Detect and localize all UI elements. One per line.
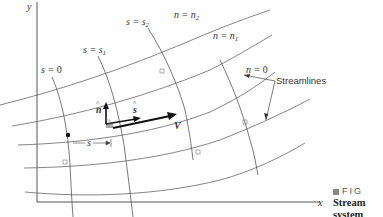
- origin-point: [66, 133, 70, 137]
- figure-label: FIG: [333, 185, 383, 197]
- square-bullet-icon: [333, 189, 339, 195]
- distance-s-marker: [73, 139, 111, 147]
- figure-caption: FIG Stream system dimens: [333, 185, 383, 217]
- label-n-n2: n = n2: [174, 9, 200, 22]
- y-axis-label: y: [26, 1, 32, 12]
- s-line-0: [52, 77, 73, 217]
- arrowhead-icon: [244, 74, 250, 78]
- label-n-n1: n = n1: [213, 30, 238, 43]
- s-lines: [52, 28, 258, 217]
- s-hat-arrowhead-icon: [133, 116, 141, 122]
- streamlines-callout-arrows: [244, 75, 275, 120]
- label-s-s2: s = s2: [126, 16, 150, 29]
- caption-line-1: Stream: [333, 197, 365, 208]
- streamline-n1: [12, 35, 272, 126]
- label-s-s1: s = s1: [83, 44, 106, 57]
- streamline-coordinate-diagram: y x s = 0 s = s1 s = s2 n = n2 n = n1 n …: [0, 0, 383, 217]
- s-line-4: [220, 60, 258, 175]
- distance-s-label: s: [87, 137, 91, 148]
- streamlines: [0, 10, 310, 195]
- caption-line-2: system: [333, 209, 363, 217]
- label-s-0: s = 0: [41, 64, 62, 75]
- streamline-5: [25, 143, 305, 195]
- velocity-arrowhead-icon: [167, 112, 177, 120]
- label-n-0: n = 0: [246, 64, 268, 75]
- x-axis-label: x: [317, 197, 323, 208]
- right-angle-markers: [63, 69, 247, 164]
- arrowhead-icon: [264, 113, 268, 120]
- streamlines-label: Streamlines: [276, 75, 326, 86]
- streamline-n0: [18, 72, 275, 145]
- s-line-s2: [148, 28, 193, 160]
